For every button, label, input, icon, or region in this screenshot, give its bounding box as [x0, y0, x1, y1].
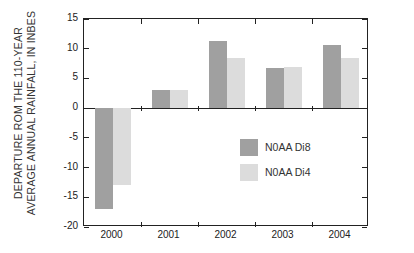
y-tick-label: 0: [48, 101, 78, 112]
y-tick-label: -10: [48, 161, 78, 172]
x-tick-mark: [141, 222, 142, 227]
y-tick-mark: [362, 227, 367, 228]
bar-2002-series-2: [227, 58, 245, 108]
y-tick-mark: [84, 197, 89, 198]
x-tick-mark: [141, 19, 142, 24]
x-tick-mark: [141, 106, 142, 111]
legend-label-series-1: N0AA Di8: [265, 141, 311, 153]
x-tick-mark: [198, 222, 199, 227]
y-tick-mark: [362, 108, 367, 109]
bar-2002-series-1: [209, 41, 227, 108]
y-tick-label: -5: [48, 131, 78, 142]
y-tick-mark: [84, 48, 89, 49]
y-axis-label-line-1: DEPARTURE ROM THE 110-YEAR: [12, 0, 25, 228]
y-axis-label: DEPARTURE ROM THE 110-YEAR AVERAGE ANNUA…: [12, 0, 38, 228]
y-tick-label: -15: [48, 190, 78, 201]
bar-2003-series-1: [266, 68, 284, 108]
legend-swatch-series-1: [240, 139, 258, 156]
y-tick-mark: [84, 78, 89, 79]
x-tick-mark: [312, 106, 313, 111]
y-axis-label-line-2: AVERAGE ANNUAL RAINFALL, IN INBES: [25, 0, 38, 228]
y-tick-mark: [84, 227, 89, 228]
y-tick-mark: [362, 48, 367, 49]
x-tick-label: 2002: [197, 229, 254, 240]
x-tick-mark: [255, 106, 256, 111]
bar-2004-series-2: [341, 58, 359, 109]
y-tick-mark: [362, 197, 367, 198]
y-tick-mark: [362, 19, 367, 20]
x-tick-label: 2001: [140, 229, 197, 240]
y-tick-label: 15: [48, 12, 78, 23]
y-tick-mark: [362, 137, 367, 138]
y-tick-label: 5: [48, 71, 78, 82]
x-tick-mark: [198, 19, 199, 24]
y-tick-mark: [362, 78, 367, 79]
y-tick-label: 10: [48, 42, 78, 53]
y-tick-mark: [362, 167, 367, 168]
bar-2000-series-2: [113, 108, 131, 185]
plot-area: [83, 18, 368, 226]
bar-2000-series-1: [95, 108, 113, 209]
x-tick-label: 2003: [254, 229, 311, 240]
x-tick-mark: [255, 19, 256, 24]
y-tick-mark: [84, 108, 89, 109]
y-tick-label: -20: [48, 220, 78, 231]
x-tick-label: 2000: [83, 229, 140, 240]
legend-label-series-2: N0AA Di4: [265, 166, 311, 178]
y-tick-mark: [84, 19, 89, 20]
x-tick-mark: [255, 222, 256, 227]
bar-2003-series-2: [284, 67, 302, 109]
bar-2001-series-1: [152, 90, 170, 108]
x-tick-label: 2004: [311, 229, 368, 240]
legend-swatch-series-2: [240, 164, 258, 181]
x-tick-mark: [198, 106, 199, 111]
y-tick-mark: [84, 137, 89, 138]
x-tick-mark: [312, 222, 313, 227]
bar-2001-series-2: [170, 90, 188, 108]
bar-2004-series-1: [323, 45, 341, 108]
y-tick-mark: [84, 167, 89, 168]
x-tick-mark: [312, 19, 313, 24]
